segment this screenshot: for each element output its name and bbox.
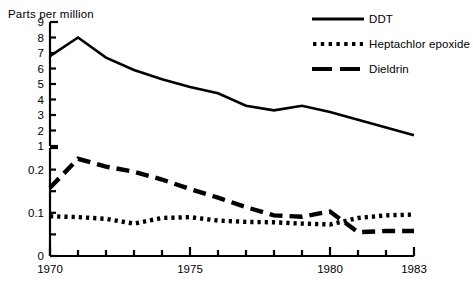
- legend-item-dieldrin: Dieldrin: [312, 56, 472, 81]
- y-tick-label-lower: 0.2: [28, 164, 44, 176]
- series-line-dieldrin: [50, 159, 414, 232]
- legend-swatch-solid: [312, 14, 364, 24]
- x-tick-labels: 1970197519801983: [37, 263, 427, 275]
- upper-panel-axis: [50, 22, 58, 146]
- series-line-heptachlor-epoxide: [50, 215, 414, 225]
- legend-item-heptachlor-epoxide: Heptachlor epoxide: [312, 31, 472, 56]
- chart-figure: Parts per million 12345678900.10.2 19701…: [0, 0, 473, 297]
- x-tick-label: 1980: [317, 263, 343, 275]
- y-tick-label-upper: 9: [38, 16, 44, 28]
- y-tick-label-upper: 5: [38, 78, 44, 90]
- y-tick-label-upper: 4: [38, 94, 45, 106]
- y-tick-label-lower: 0: [38, 250, 44, 262]
- y-tick-label-upper: 8: [38, 32, 44, 44]
- legend-label-ddt: DDT: [369, 13, 393, 25]
- y-tick-label-upper: 6: [38, 63, 44, 75]
- x-tick-label: 1975: [177, 263, 203, 275]
- y-tick-labels: 12345678900.10.2: [28, 16, 45, 262]
- x-axis: [50, 247, 414, 256]
- y-tick-label-lower: 0.1: [28, 207, 44, 219]
- legend-label-heptachlor-epoxide: Heptachlor epoxide: [369, 38, 470, 50]
- legend-swatch-dotted: [312, 39, 364, 49]
- y-tick-label-upper: 3: [38, 109, 44, 121]
- x-tick-label: 1970: [37, 263, 63, 275]
- legend: DDT Heptachlor epoxide Dieldrin: [312, 6, 472, 81]
- legend-item-ddt: DDT: [312, 6, 472, 31]
- legend-label-dieldrin: Dieldrin: [369, 63, 409, 75]
- y-tick-label-upper: 2: [38, 125, 44, 137]
- x-tick-label: 1983: [401, 263, 427, 275]
- y-tick-label-upper: 7: [38, 47, 44, 59]
- legend-swatch-dashed: [312, 64, 364, 74]
- y-tick-label-upper: 1: [38, 140, 44, 152]
- lower-panel-axis: [50, 148, 58, 256]
